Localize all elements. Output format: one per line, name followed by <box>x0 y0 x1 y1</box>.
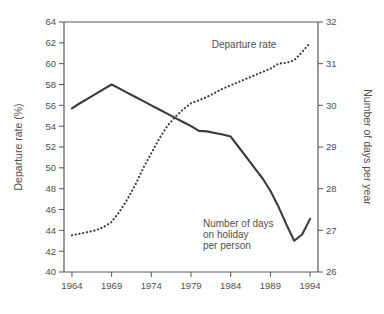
x-tick-label: 1969 <box>101 280 122 291</box>
left-tick-label: 40 <box>45 266 56 277</box>
x-tick-label: 1989 <box>260 280 281 291</box>
left-tick-label: 64 <box>45 16 56 27</box>
right-axis-title: Number of days per year <box>362 89 374 205</box>
number-of-days-label-line1: Number of days <box>203 218 274 229</box>
left-tick-label: 44 <box>45 225 56 236</box>
x-tick-label: 1964 <box>61 280 82 291</box>
left-tick-label: 54 <box>45 121 56 132</box>
left-tick-label: 50 <box>45 162 56 173</box>
left-tick-label: 60 <box>45 58 56 69</box>
right-tick-label: 26 <box>326 266 337 277</box>
x-tick-label: 1994 <box>299 280 320 291</box>
right-tick-label: 31 <box>326 58 337 69</box>
right-tick-label: 30 <box>326 100 337 111</box>
number-of-days-label-line2: on holiday <box>203 229 249 240</box>
departure-rate-label: Departure rate <box>212 39 277 50</box>
departure-rate-chart: 40 42 44 46 48 50 52 54 56 58 60 62 64 <box>0 0 384 314</box>
right-tick-label: 32 <box>326 16 337 27</box>
right-tick-label: 29 <box>326 141 337 152</box>
left-tick-label: 42 <box>45 246 56 257</box>
x-tick-label: 1979 <box>180 280 201 291</box>
x-tick-label: 1974 <box>141 280 162 291</box>
right-tick-label: 27 <box>326 225 337 236</box>
left-tick-label: 56 <box>45 100 56 111</box>
left-axis-title: Departure rate (%) <box>12 104 24 191</box>
left-tick-label: 62 <box>45 37 56 48</box>
number-of-days-label-line3: per person <box>203 240 251 251</box>
left-tick-label: 46 <box>45 204 56 215</box>
left-tick-label: 58 <box>45 79 56 90</box>
x-tick-label: 1984 <box>220 280 241 291</box>
chart-canvas: 40 42 44 46 48 50 52 54 56 58 60 62 64 <box>0 0 384 314</box>
left-tick-label: 52 <box>45 141 56 152</box>
right-tick-label: 28 <box>326 183 337 194</box>
left-tick-label: 48 <box>45 183 56 194</box>
